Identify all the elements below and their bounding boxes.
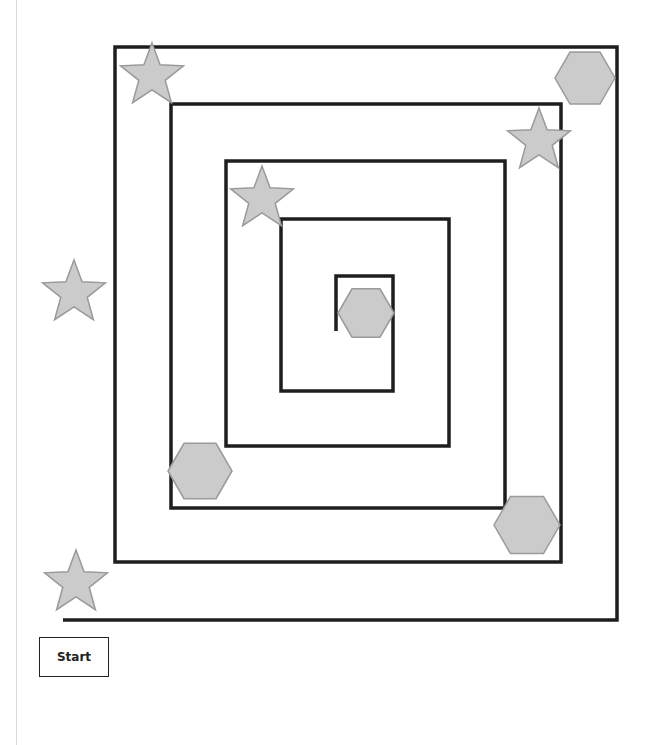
star-icon (121, 43, 184, 103)
star-icon (231, 166, 294, 226)
star-icon (43, 260, 106, 320)
hexagon-icon (338, 289, 394, 337)
spiral-maze (0, 0, 662, 745)
hexagon-icon (168, 443, 232, 498)
hexagon-icon (555, 52, 615, 104)
start-label-box: Start (39, 637, 109, 677)
start-label: Start (57, 650, 91, 664)
star-icon (45, 550, 108, 610)
shapes-layer (43, 43, 615, 610)
